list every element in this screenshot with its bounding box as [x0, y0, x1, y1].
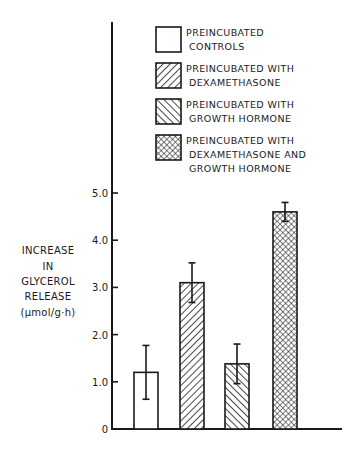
glycerol-release-bar-chart: 01.02.03.04.05.0 INCREASEINGLYCEROLRELEA… — [0, 0, 358, 454]
legend: PREINCUBATEDCONTROLSPREINCUBATED WITHDEX… — [156, 27, 306, 174]
bar-group — [180, 263, 204, 429]
legend-label-line: PREINCUBATED WITH — [186, 99, 294, 110]
legend-label-line: CONTROLS — [189, 41, 245, 52]
legend-label-line: DEXAMETHASONE AND — [189, 149, 306, 160]
legend-label-line: PREINCUBATED — [186, 27, 264, 38]
legend-item: PREINCUBATED WITHDEXAMETHASONE ANDGROWTH… — [156, 135, 306, 174]
y-axis-label-line: INCREASE — [22, 245, 75, 256]
y-axis-ticks: 01.02.03.04.05.0 — [92, 188, 118, 435]
y-tick-label: 2.0 — [92, 330, 108, 341]
y-tick-label: 1.0 — [92, 377, 108, 388]
bar-group — [134, 345, 158, 429]
y-axis-label: INCREASEINGLYCEROLRELEASE(μmol/g·h) — [20, 245, 75, 318]
y-tick-label: 4.0 — [92, 235, 108, 246]
y-tick-label: 0 — [102, 424, 108, 435]
legend-item: PREINCUBATED WITHDEXAMETHASONE — [156, 63, 294, 88]
y-axis-label-line: IN — [42, 261, 53, 272]
bar-group — [225, 344, 249, 429]
legend-label-line: DEXAMETHASONE — [189, 77, 281, 88]
legend-label-line: PREINCUBATED WITH — [186, 135, 294, 146]
y-tick-label: 3.0 — [92, 282, 108, 293]
legend-label-line: GROWTH HORMONE — [189, 163, 291, 174]
legend-item: PREINCUBATED WITHGROWTH HORMONE — [156, 99, 294, 124]
y-axis: 01.02.03.04.05.0 — [92, 22, 118, 435]
legend-swatch — [156, 135, 181, 160]
bar-group — [273, 202, 297, 429]
legend-label-line: PREINCUBATED WITH — [186, 63, 294, 74]
legend-item: PREINCUBATEDCONTROLS — [156, 27, 264, 52]
bars — [134, 202, 297, 429]
y-axis-label-line: RELEASE — [25, 291, 72, 302]
y-axis-label-line: GLYCEROL — [21, 276, 75, 287]
y-tick-label: 5.0 — [92, 188, 108, 199]
bar — [273, 212, 297, 429]
y-axis-label-line: (μmol/g·h) — [20, 307, 75, 318]
bar — [180, 283, 204, 429]
legend-swatch — [156, 63, 181, 88]
legend-label-line: GROWTH HORMONE — [189, 113, 291, 124]
legend-swatch — [156, 99, 181, 124]
legend-swatch — [156, 27, 181, 52]
